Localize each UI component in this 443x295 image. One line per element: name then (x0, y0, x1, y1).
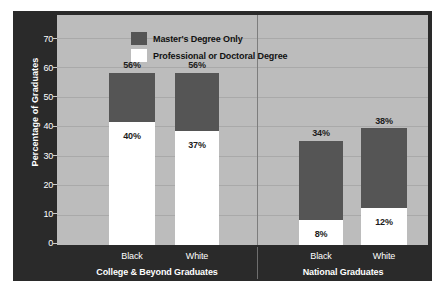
y-tick-label-20: 20 (23, 180, 53, 190)
y-axis-title: Percentage of Graduates (30, 32, 40, 192)
y-tick-label-30: 30 (23, 151, 53, 161)
x-tick-label-college-black: Black (109, 251, 155, 261)
bar-total-label-national-white: 38% (361, 116, 407, 126)
bar-national-white[interactable]: 12% (361, 128, 407, 245)
bar-college-white[interactable]: 37% (175, 73, 219, 245)
legend-swatch-professional-icon (131, 49, 147, 62)
bar-college-black[interactable]: 40% (109, 73, 155, 245)
x-tick-label-national-black: Black (299, 251, 343, 261)
y-tick-label-0: 0 (23, 238, 53, 248)
bar-total-label-national-black: 34% (299, 128, 343, 138)
bar-segment-label: 37% (175, 140, 219, 150)
bar-national-black[interactable]: 8% (299, 141, 343, 245)
x-tick-label-college-white: White (175, 251, 219, 261)
legend-swatch-masters-icon (131, 32, 147, 45)
bar-segment-label: 8% (299, 229, 343, 239)
y-tick-label-70: 70 (23, 34, 53, 44)
chart-legend: Master's Degree Only Professional or Doc… (131, 31, 287, 65)
bar-segment-label: 40% (109, 131, 155, 141)
legend-label-professional: Professional or Doctoral Degree (153, 51, 287, 61)
y-tick-label-50: 50 (23, 92, 53, 102)
legend-label-masters: Master's Degree Only (153, 34, 243, 44)
legend-item-professional[interactable]: Professional or Doctoral Degree (131, 48, 287, 63)
y-tick-label-10: 10 (23, 209, 53, 219)
group-label-college-beyond: College & Beyond Graduates (57, 267, 257, 277)
bar-segment-label: 12% (361, 217, 407, 227)
y-tick-label-60: 60 (23, 63, 53, 73)
legend-item-masters[interactable]: Master's Degree Only (131, 31, 287, 46)
y-tick-label-40: 40 (23, 121, 53, 131)
plot-area: 40% 56% 37% 56% 8% 34% 12% 38% Maste (57, 15, 428, 245)
x-tick-label-national-white: White (361, 251, 407, 261)
group-label-national: National Graduates (258, 267, 428, 277)
stacked-bar-chart: Percentage of Graduates 70 60 50 40 30 2… (13, 11, 432, 281)
